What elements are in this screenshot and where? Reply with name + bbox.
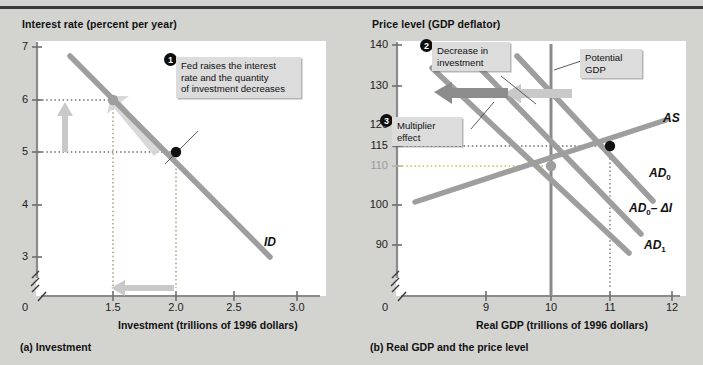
panel-b-ytick-label-140: 140 [354,38,388,50]
panel-b-curve-label-ad1: AD1 [644,238,666,254]
panel-real-gdp-price-level: Price level (GDP deflator) [358,16,698,356]
panel-b-origin-label: 0 [354,301,388,313]
panel-b-curve-label-as: AS [663,111,680,125]
panel-b-point-new-equilibrium [546,161,556,171]
panel-b-ytick-label-110: 110 [354,159,388,171]
panel-b-curve-label-ad0-delta-i: AD0– ΔI [629,201,672,217]
panel-investment: Interest rate (percent per year) [8,16,348,356]
panel-a-origin-label: 0 [8,301,28,313]
top-divider-rule [0,6,703,9]
panel-a-investment-left-arrow [111,280,174,296]
panel-b-ytick-label-130: 130 [354,79,388,91]
panel-a-xtick-label-1-5: 1.5 [93,301,133,313]
panel-a-callout-leader [165,131,198,164]
panel-a-xtick-label-2-5: 2.5 [214,301,254,313]
panel-b-xtick-label-10: 10 [531,301,571,313]
panel-a-ytick-label-3: 3 [8,250,28,262]
panel-b-ytick-label-100: 100 [354,198,388,210]
panel-b-xtick-label-12: 12 [652,301,692,313]
panel-b-point-initial-equilibrium [605,141,615,151]
panel-b-ytick-label-90: 90 [354,238,388,250]
panel-b-curve-label-ad0: AD0 [649,166,671,182]
panel-a-caption: (a) Investment [20,341,91,353]
panel-b-caption: (b) Real GDP and the price level [370,341,529,353]
panel-b-ad0-delta-i-curve [474,62,641,234]
panel-b-ytick-label-115: 115 [354,139,388,151]
panel-a-xtick-label-2-0: 2.0 [156,301,196,313]
panel-a-xtick-label-3-0: 3.0 [277,301,317,313]
panel-b-x-axis-caption: Real GDP (trillions of 1996 dollars) [476,319,648,331]
panel-a-ytick-label-6: 6 [8,93,28,105]
panel-a-curve-label-id: ID [264,235,276,249]
panel-a-point-initial-equilibrium [171,147,181,157]
panel-b-callout-3: Multiplier effect [392,117,462,146]
panel-b-xtick-label-9: 9 [466,301,506,313]
panel-b-curve-label-ad1-main: AD [644,238,661,252]
panel-b-xtick-label-11: 11 [590,301,630,313]
panel-b-curve-label-ad0-di-main: AD [629,201,646,215]
panel-b-callout-2: Decrease in investment [432,42,510,71]
panel-a-callout-1: Fed raises the interest rate and the qua… [176,57,301,98]
panel-a-point-new-equilibrium [108,95,118,105]
panel-a-ytick-label-4: 4 [8,198,28,210]
panel-b-graphic [358,16,698,356]
panel-b-curve-label-ad0-main: AD [649,166,666,180]
panel-a-ytick-label-7: 7 [8,40,28,52]
panel-b-potential-gdp-leader [554,61,581,70]
panel-a-interest-rate-up-arrow [57,102,73,152]
panel-a-x-axis-caption: Investment (trillions of 1996 dollars) [118,319,298,331]
panel-b-potential-gdp-label: Potential GDP [580,49,642,78]
panel-a-ytick-label-5: 5 [8,145,28,157]
panel-b-curve-label-ad0-sub: 0 [666,173,670,182]
panel-b-curve-label-ad1-sub: 1 [661,245,665,254]
panel-b-curve-label-ad0-di-tail: – ΔI [651,201,672,215]
